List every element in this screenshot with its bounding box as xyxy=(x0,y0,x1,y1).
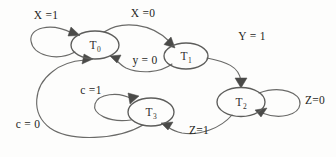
state-label-t2-subscript: 2 xyxy=(243,102,247,111)
state-label-t3-subscript: 3 xyxy=(153,112,157,121)
arrow-head-t0-to-t1 xyxy=(164,37,175,48)
edge-label-t1-to-t0: y = 0 xyxy=(132,54,157,66)
state-label-t1: T1 xyxy=(180,50,191,62)
state-diagram-canvas: T0 T1 T2 T3 X =1 X =0 y = 0 Y = 1 Z=0 Z=… xyxy=(0,0,336,157)
state-label-t3: T3 xyxy=(145,106,156,118)
edge-label-t0-self: X =1 xyxy=(34,9,59,21)
edge-path-t1-to-t2 xyxy=(207,58,241,81)
state-label-t1-name: T xyxy=(180,50,187,62)
edge-path-t0-to-t1 xyxy=(104,25,170,42)
state-label-t0-subscript: 0 xyxy=(97,45,101,54)
edge-label-t0-to-t1: X =0 xyxy=(131,7,156,19)
edge-label-t1-to-t2: Y = 1 xyxy=(238,30,265,42)
state-diagram-graphics xyxy=(0,0,336,157)
transition-t3-self-loop xyxy=(95,93,139,121)
edge-path-t3-to-t0 xyxy=(37,60,143,137)
transition-t1-to-t2 xyxy=(207,58,247,88)
arrow-head-t1-to-t2 xyxy=(235,78,247,88)
edge-label-t2-to-t3: Z=1 xyxy=(189,124,209,136)
state-label-t3-name: T xyxy=(145,106,152,118)
state-label-t1-subscript: 1 xyxy=(188,56,192,65)
transition-t0-self-loop xyxy=(31,27,80,57)
state-label-t0-name: T xyxy=(89,39,96,51)
edge-path-t0-self xyxy=(31,27,75,56)
arrow-head-t1-to-t0 xyxy=(110,55,121,63)
state-label-t2-name: T xyxy=(235,96,242,108)
edge-label-t3-to-t0: c = 0 xyxy=(16,118,41,130)
edge-label-t2-self: Z=0 xyxy=(305,94,325,106)
state-label-t2: T2 xyxy=(235,96,246,108)
edge-label-t3-self: c =1 xyxy=(80,84,101,96)
state-label-t0: T0 xyxy=(89,39,100,51)
edge-path-t3-self xyxy=(95,94,132,120)
